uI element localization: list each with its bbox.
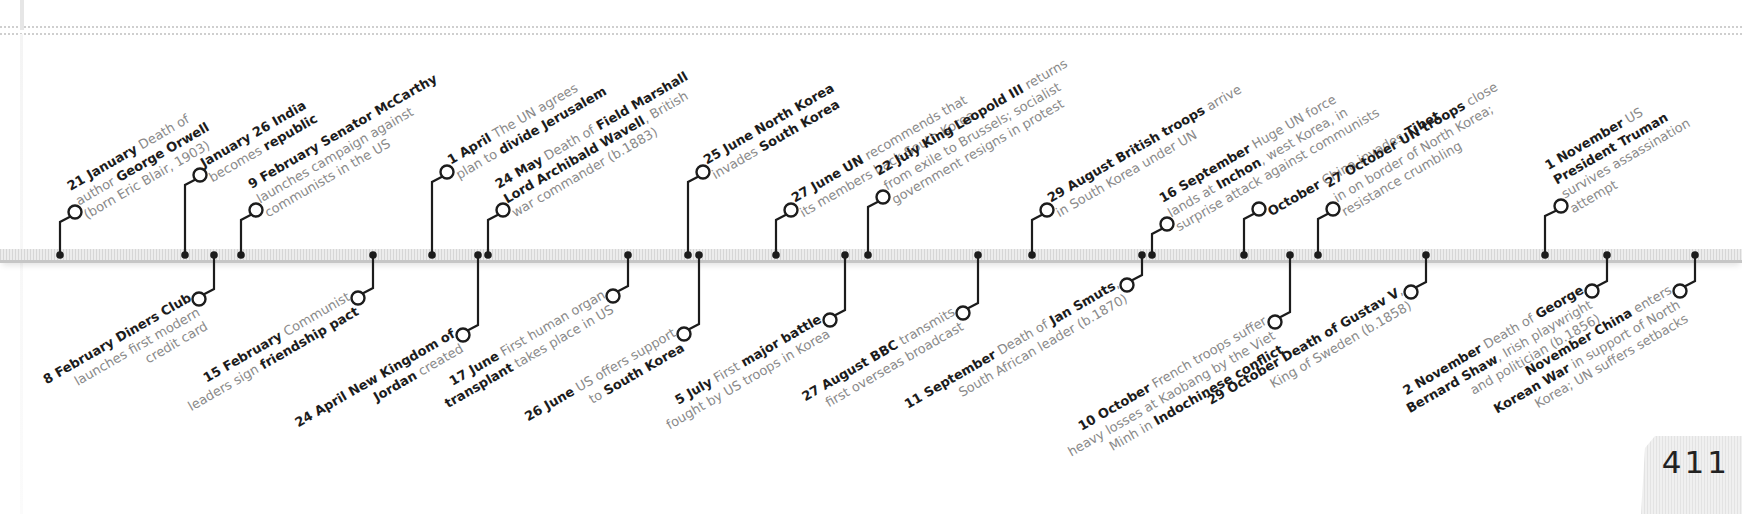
marker-stem (835, 255, 845, 315)
marker-ring-icon (1269, 316, 1282, 329)
marker-ring-icon (1586, 285, 1599, 298)
timeline-marker (1314, 203, 1339, 259)
marker-ring-icon (1253, 203, 1266, 216)
marker-dot (695, 251, 703, 259)
marker-stem (1685, 255, 1695, 286)
timeline-marker (56, 206, 81, 259)
marker-dot (237, 251, 245, 259)
timeline-marker (428, 166, 453, 259)
marker-dot (684, 251, 692, 259)
marker-ring-icon (678, 328, 691, 341)
timeline-marker (1541, 200, 1567, 259)
timeline-marker (1405, 251, 1430, 298)
marker-dot (1422, 251, 1430, 259)
marker-dot (1286, 251, 1294, 259)
marker-dot (841, 251, 849, 259)
timeline-marker (181, 169, 206, 259)
marker-dot (1314, 251, 1322, 259)
marker-ring-icon (957, 307, 970, 320)
marker-stem (1597, 255, 1607, 286)
marker-stem (185, 180, 195, 255)
timeline-marker (772, 204, 797, 259)
page-number-tab: 411 (1641, 436, 1742, 514)
marker-stem (689, 255, 699, 329)
timeline-marker (484, 204, 509, 259)
timeline-marker (1269, 251, 1294, 328)
marker-stem (488, 215, 498, 255)
timeline-marker (352, 251, 377, 304)
timeline-marker (1148, 218, 1173, 259)
marker-stem (1032, 215, 1042, 255)
timeline-marker (1121, 251, 1146, 291)
timeline-connectors (0, 0, 1742, 514)
marker-dot (1138, 251, 1146, 259)
marker-dot (1603, 251, 1611, 259)
marker-ring-icon (1121, 279, 1134, 292)
marker-dot (484, 251, 492, 259)
marker-dot (1691, 251, 1699, 259)
marker-dot (1028, 251, 1036, 259)
marker-dot (772, 251, 780, 259)
marker-ring-icon (1405, 286, 1418, 299)
marker-stem (1152, 229, 1162, 255)
timeline-marker (607, 251, 632, 302)
marker-stem (468, 255, 478, 330)
marker-dot (369, 251, 377, 259)
timeline-marker (957, 251, 982, 319)
marker-dot (428, 251, 436, 259)
marker-ring-icon (824, 314, 837, 327)
marker-dot (1240, 251, 1248, 259)
timeline-marker (1674, 251, 1699, 297)
marker-ring-icon (457, 329, 470, 342)
marker-stem (204, 255, 214, 294)
marker-stem (1318, 214, 1328, 255)
marker-stem (1132, 255, 1142, 280)
marker-ring-icon (1674, 285, 1687, 298)
timeline-marker (684, 166, 709, 259)
page-number: 411 (1662, 444, 1730, 480)
marker-dot (864, 251, 872, 259)
marker-dot (181, 251, 189, 259)
timeline-marker (237, 204, 262, 259)
marker-stem (688, 177, 698, 255)
marker-dot (210, 251, 218, 259)
marker-stem (432, 177, 442, 255)
timeline-marker (678, 251, 703, 340)
marker-stem (776, 215, 786, 255)
timeline-marker (457, 251, 482, 341)
marker-stem (60, 217, 70, 255)
timeline-marker (1586, 251, 1611, 297)
timeline-marker (1028, 204, 1053, 259)
marker-stem (868, 202, 878, 255)
marker-stem (1416, 255, 1426, 287)
marker-dot (56, 251, 64, 259)
marker-stem (241, 215, 251, 255)
timeline-marker (824, 251, 849, 326)
marker-stem (1545, 211, 1556, 255)
marker-dot (1541, 251, 1549, 259)
marker-dot (624, 251, 632, 259)
marker-dot (974, 251, 982, 259)
marker-stem (1244, 214, 1254, 255)
marker-dot (474, 251, 482, 259)
marker-stem (968, 255, 978, 308)
timeline-marker (1240, 203, 1265, 259)
marker-stem (363, 255, 373, 293)
timeline-marker (193, 251, 218, 305)
timeline-marker (864, 191, 889, 259)
marker-dot (1148, 251, 1156, 259)
marker-stem (618, 255, 628, 291)
marker-stem (1280, 255, 1290, 317)
